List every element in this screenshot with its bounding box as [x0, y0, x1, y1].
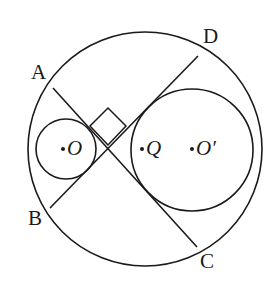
chord-a-c: [53, 88, 197, 247]
vertex-label-d: D: [203, 26, 218, 47]
geometry-figure: A D B C O Q O′: [0, 0, 275, 294]
center-label-o-prime: O′: [196, 138, 216, 159]
center-dot-O-prime: [190, 147, 194, 151]
center-label-q: Q: [146, 138, 161, 159]
center-label-o: O: [67, 138, 82, 159]
center-dot-O: [61, 147, 65, 151]
vertex-label-b: B: [28, 208, 42, 229]
geometry-canvas: [0, 0, 275, 294]
vertex-label-a: A: [31, 62, 46, 83]
center-dot-Q: [140, 147, 144, 151]
chord-b-d: [50, 56, 198, 208]
vertex-label-c: C: [200, 251, 214, 272]
right-angle-mark: [90, 108, 126, 145]
